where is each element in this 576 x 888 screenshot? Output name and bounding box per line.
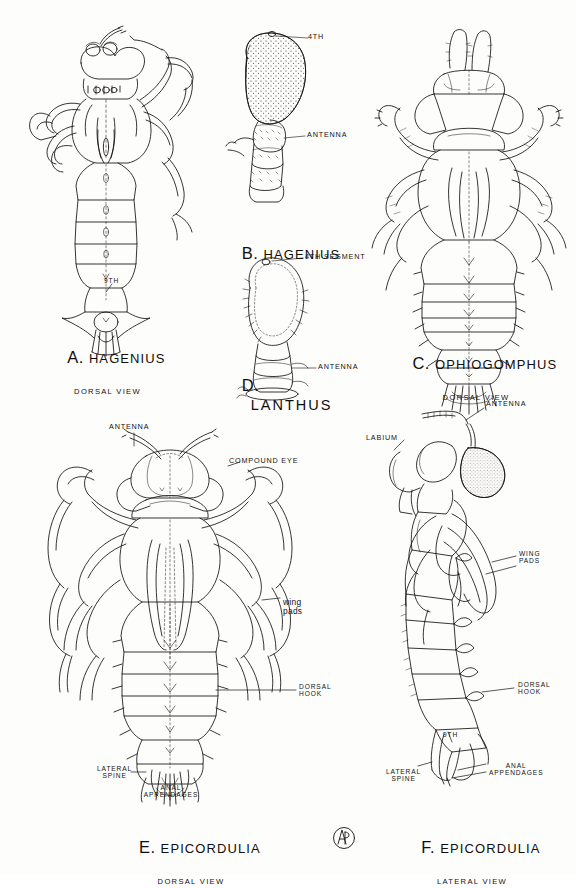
- caption-e-letter: E.: [139, 838, 161, 856]
- caption-panel-f: F. EPICORDULIA LATERAL VIEW: [368, 820, 576, 888]
- label-f-anal-appendages: ANAL APPENDAGES: [489, 762, 543, 777]
- caption-panel-c: C. OPHIOGOMPHUS DORSAL VIEW: [378, 336, 574, 438]
- label-d-fourth-segment: 4TH SEGMENT: [305, 253, 365, 261]
- panel-f-artwork: [389, 411, 504, 786]
- label-b-antenna: ANTENNA: [307, 131, 347, 139]
- caption-b-letter: B.: [242, 244, 264, 262]
- panel-a-artwork: [30, 26, 193, 356]
- caption-panel-a: A. HAGENIUS DORSAL VIEW: [10, 330, 205, 432]
- caption-d-genus: LANTHUS: [251, 397, 333, 413]
- caption-panel-d-genus: LANTHUS: [233, 378, 332, 432]
- artist-monogram-mark: [334, 828, 355, 849]
- label-e-anal-appendages: ANAL APPENDAGES: [133, 784, 209, 799]
- label-b-fourth-segment: 4TH: [308, 33, 324, 41]
- caption-f-view: LATERAL VIEW: [368, 877, 576, 886]
- caption-a-genus: HAGENIUS: [89, 351, 166, 366]
- caption-a-view: DORSAL VIEW: [10, 387, 205, 396]
- label-f-wing-pads: WING PADS: [519, 550, 541, 565]
- label-f-segment-9: 9TH: [443, 731, 458, 738]
- caption-e-genus: EPICORDULIA: [161, 841, 261, 856]
- label-f-lateral-spine: LATERAL SPINE: [386, 768, 421, 783]
- label-e-dorsal-hook: DORSAL HOOK: [299, 683, 332, 698]
- caption-f-letter: F.: [421, 838, 440, 856]
- caption-a-letter: A.: [67, 348, 89, 366]
- caption-panel-e: E. EPICORDULIA DORSAL VIEW: [76, 820, 306, 888]
- label-f-labium: LABIUM: [366, 434, 398, 442]
- label-e-wing-pads: wing pads: [283, 598, 302, 617]
- label-d-antenna: ANTENNA: [318, 363, 358, 371]
- label-f-antenna: ANTENNA: [486, 400, 526, 408]
- panel-b-artwork: [226, 31, 308, 202]
- caption-c-letter: C.: [412, 354, 435, 372]
- label-e-compound-eye: COMPOUND EYE: [229, 457, 298, 465]
- caption-c-genus: OPHIOGOMPHUS: [435, 357, 557, 372]
- label-e-antenna: ANTENNA: [109, 423, 149, 431]
- caption-c-view: DORSAL VIEW: [378, 393, 574, 402]
- panel-e-artwork: [48, 429, 292, 806]
- label-e-lateral-spine: LATERAL SPINE: [97, 765, 132, 780]
- caption-e-view: DORSAL VIEW: [76, 877, 306, 886]
- label-f-dorsal-hook: DORSAL HOOK: [518, 681, 551, 696]
- caption-f-genus: EPICORDULIA: [440, 841, 540, 856]
- label-a-segment-9: 9TH: [104, 277, 119, 284]
